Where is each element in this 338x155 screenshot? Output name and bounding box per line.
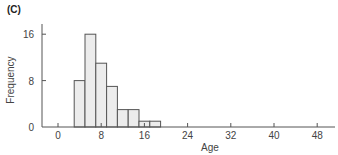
axes-group: 0816081624324048: [23, 24, 335, 141]
x-tick-label: 16: [139, 130, 151, 141]
x-tick-label: 8: [98, 130, 104, 141]
y-axis-label: Frequency: [5, 56, 16, 103]
histogram-bar: [150, 121, 161, 127]
x-tick-label: 48: [312, 130, 324, 141]
y-tick-label: 8: [28, 76, 34, 87]
x-axis-label: Age: [201, 142, 219, 153]
x-tick-label: 32: [225, 130, 237, 141]
histogram-bar: [117, 110, 128, 127]
histogram-bar: [128, 110, 139, 127]
y-tick-label: 16: [23, 29, 35, 40]
x-tick-label: 24: [182, 130, 194, 141]
histogram-bar: [96, 63, 107, 127]
y-tick-label: 0: [28, 122, 34, 133]
histogram-bar: [85, 34, 96, 127]
bars-group: [74, 34, 160, 127]
histogram-chart: 0816081624324048 Age Frequency: [0, 0, 338, 155]
x-tick-label: 0: [55, 130, 61, 141]
histogram-bar: [74, 81, 85, 127]
x-tick-label: 40: [268, 130, 280, 141]
histogram-bar: [107, 86, 118, 127]
